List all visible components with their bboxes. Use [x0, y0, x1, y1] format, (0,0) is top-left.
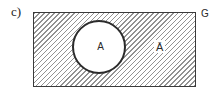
set-a-label: A: [94, 42, 104, 52]
subfigure-label: c): [11, 4, 21, 20]
euler-diagram-figure: c) A Ā G: [0, 0, 212, 96]
complement-region-label: Ā: [154, 40, 165, 53]
universe-rectangle-hatched: A Ā: [33, 12, 196, 87]
universe-label: G: [201, 8, 209, 19]
set-a-circle: A: [72, 20, 126, 74]
